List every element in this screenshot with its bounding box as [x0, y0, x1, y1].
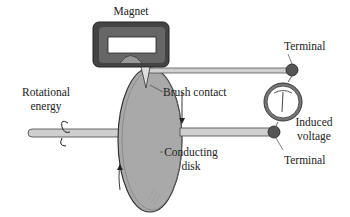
label-voltage: voltage	[297, 130, 331, 143]
rotational-energy-arrow-lower	[61, 138, 66, 146]
top-wire	[146, 68, 292, 73]
label-terminal-top: Terminal	[284, 40, 325, 52]
terminal-bottom	[268, 126, 280, 138]
magnet	[93, 22, 169, 67]
label-brush-contact: Brush contact	[163, 86, 227, 98]
label-magnet: Magnet	[113, 5, 149, 18]
label-disk: disk	[181, 160, 200, 172]
label-induced: Induced	[295, 116, 332, 128]
shaft-right	[180, 128, 275, 136]
disk-generator-diagram: Magnet Terminal Brush contact Rotational…	[0, 0, 350, 217]
label-conducting: Conducting	[164, 146, 218, 159]
leader-terminal-bottom	[276, 138, 283, 150]
terminal-top	[286, 64, 298, 76]
label-terminal-bottom: Terminal	[284, 154, 325, 166]
label-energy: energy	[30, 100, 61, 113]
label-rotational: Rotational	[22, 86, 70, 98]
leader-terminal-top	[288, 54, 292, 64]
